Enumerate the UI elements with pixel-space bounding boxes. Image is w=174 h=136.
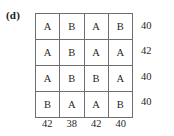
column-total-value: 42 xyxy=(35,116,60,130)
matrix-cell: A xyxy=(36,40,60,66)
matrix-cell: A xyxy=(108,66,132,92)
column-totals: 42 38 42 40 xyxy=(35,116,133,130)
matrix-cell: B xyxy=(36,92,60,118)
matrix-cell: B xyxy=(84,66,108,92)
matrix-cell: A xyxy=(84,40,108,66)
table-row: B A A B xyxy=(36,92,133,118)
row-total-value: 40 xyxy=(137,64,167,89)
table-row: A B B A xyxy=(36,66,133,92)
figure-panel: (d) A B A B A B A A A B B xyxy=(0,0,174,136)
table-row: A B A B xyxy=(36,14,133,40)
matrix-cell: A xyxy=(36,14,60,40)
matrix-cell: B xyxy=(60,66,84,92)
matrix-table: A B A B A B A A A B B A B xyxy=(35,13,133,118)
matrix-cell: A xyxy=(84,14,108,40)
matrix-cell: A xyxy=(84,92,108,118)
matrix-grid: A B A B A B A A A B B A B xyxy=(35,13,133,114)
column-total-value: 38 xyxy=(60,116,85,130)
table-row: A B A A xyxy=(36,40,133,66)
matrix-cell: A xyxy=(60,92,84,118)
row-totals: 40 42 40 40 xyxy=(137,13,167,114)
matrix-cell: A xyxy=(36,66,60,92)
column-total-value: 40 xyxy=(109,116,134,130)
matrix-cell: B xyxy=(108,92,132,118)
row-total-value: 42 xyxy=(137,38,167,63)
matrix-cell: B xyxy=(108,14,132,40)
matrix-cell: A xyxy=(108,40,132,66)
row-total-value: 40 xyxy=(137,13,167,38)
row-total-value: 40 xyxy=(137,89,167,114)
column-total-value: 42 xyxy=(84,116,109,130)
matrix-cell: B xyxy=(60,14,84,40)
panel-label: (d) xyxy=(6,9,20,21)
matrix-cell: B xyxy=(60,40,84,66)
